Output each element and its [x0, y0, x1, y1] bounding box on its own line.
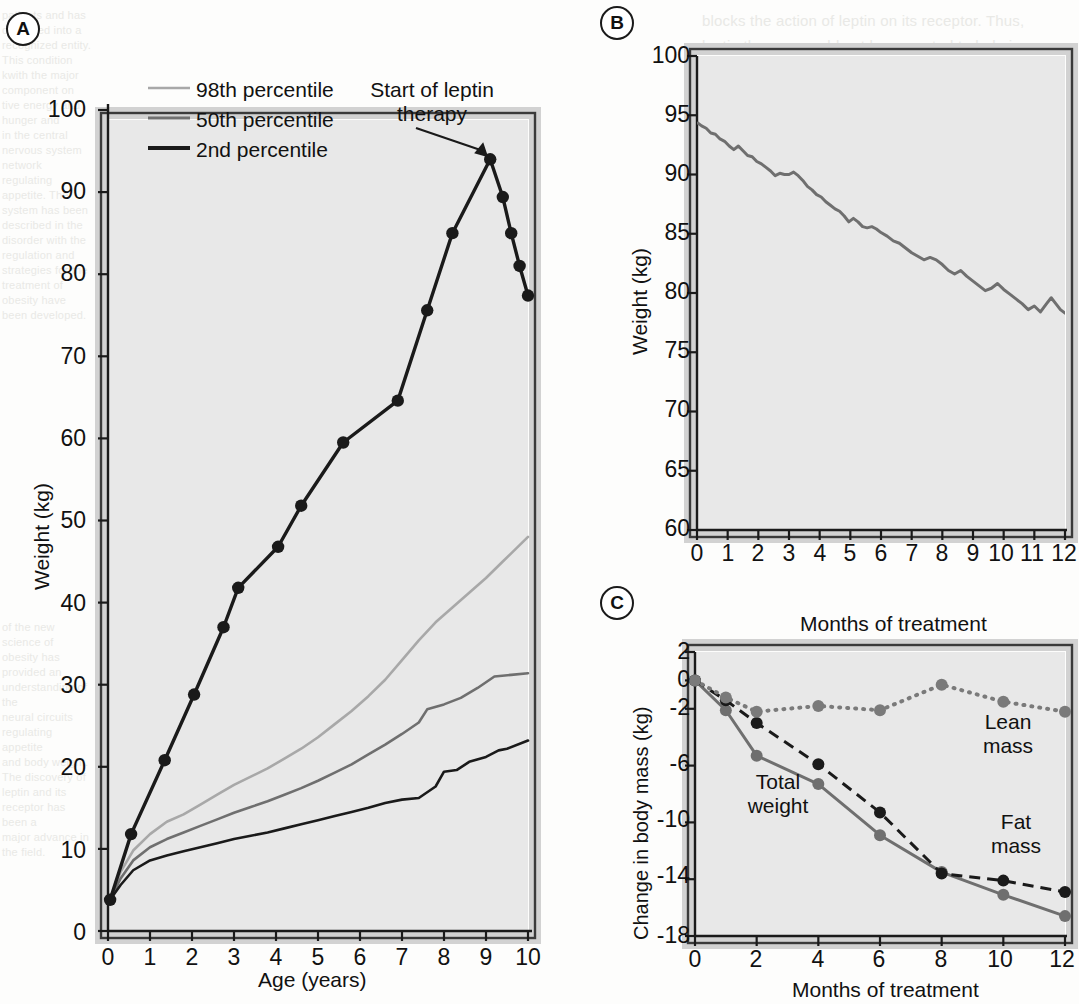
panel-c-ytick--10: -10	[622, 806, 690, 833]
panel-c-marker-fat-mass-3	[812, 758, 824, 770]
panel-c-x-axis-title: Months of treatment	[792, 978, 979, 1002]
panel-c-ytick--14: -14	[622, 862, 690, 889]
panel-a-ytick-60: 60	[34, 425, 86, 452]
panel-b-ytick-75: 75	[638, 337, 690, 364]
panel-c-marker-lean-mass-1	[720, 691, 732, 703]
panel-c-marker-lean-mass-5	[936, 679, 948, 691]
panel-c-marker-lean-mass-7	[1059, 706, 1071, 718]
panel-a-xtick-7: 7	[382, 944, 422, 971]
panel-a-ytick-10: 10	[34, 837, 86, 864]
panel-c-xtick-12: 12	[1042, 946, 1079, 973]
panel-a-marker-7	[295, 500, 307, 512]
panel-c-ytick--18: -18	[622, 922, 690, 949]
panel-c-marker-fat-mass-5	[936, 868, 948, 880]
panel-a-marker-11	[446, 227, 458, 239]
panel-a-inner-bg	[108, 120, 528, 931]
panel-a-tag: A	[6, 12, 40, 46]
panel-b-ytick-95: 95	[638, 101, 690, 128]
panel-a-xtick-2: 2	[172, 944, 212, 971]
panel-c-marker-lean-mass-0	[689, 674, 701, 686]
panel-a-marker-5	[232, 582, 244, 594]
panel-c-marker-total-weight-7	[1059, 910, 1071, 922]
panel-b-ytick-70: 70	[638, 396, 690, 423]
panel-a-ytick-50: 50	[34, 507, 86, 534]
panel-a-marker-16	[522, 289, 534, 301]
panel-b-ytick-100: 100	[638, 42, 690, 69]
panel-a-marker-1	[125, 828, 137, 840]
panel-a-annotation-text: Start of leptin therapy	[352, 78, 512, 126]
panel-a-xtick-4: 4	[256, 944, 296, 971]
panel-a-marker-8	[337, 436, 349, 448]
panel-a-x-axis-title: Age (years)	[258, 968, 367, 992]
panel-c-xtick-2: 2	[736, 946, 776, 973]
panel-a-xtick-10: 10	[508, 944, 548, 971]
panel-c-marker-lean-mass-2	[751, 706, 763, 718]
panel-a-marker-4	[217, 621, 229, 633]
panel-b-ytick-90: 90	[638, 160, 690, 187]
panel-c-marker-total-weight-4	[874, 829, 886, 841]
figure-root: blocks the action of leptin on its recep…	[0, 0, 1079, 1004]
panel-b-ytick-85: 85	[638, 219, 690, 246]
panel-b-ytick-80: 80	[638, 278, 690, 305]
panel-c-label-total-weight: Total weight	[728, 770, 828, 818]
panel-c-marker-fat-mass-4	[874, 806, 886, 818]
panel-c-label-fat-mass: Fat mass	[976, 810, 1056, 858]
panel-a-marker-13	[497, 191, 509, 203]
panel-c-marker-lean-mass-4	[874, 704, 886, 716]
panel-c-marker-fat-mass-2	[751, 717, 763, 729]
panel-a-legend-label-98th: 98th percentile	[196, 78, 334, 102]
panel-a-legend-label-2nd: 2nd percentile	[196, 138, 328, 162]
panel-a-y-axis-title: Weight (kg)	[30, 483, 54, 590]
panel-a-ytick-40: 40	[34, 590, 86, 617]
panel-c-ytick--2: -2	[630, 694, 690, 721]
panel-a-xtick-5: 5	[298, 944, 338, 971]
panel-a-ytick-30: 30	[34, 672, 86, 699]
panel-c-tag: C	[600, 586, 634, 620]
panel-c-ytick-2: 2	[638, 638, 690, 665]
panel-a-marker-0	[104, 894, 116, 906]
panel-c-xtick-8: 8	[921, 946, 961, 973]
panel-c-xtick-4: 4	[798, 946, 838, 973]
panel-b-tag: B	[600, 6, 634, 40]
panel-a-marker-10	[421, 304, 433, 316]
panel-c-marker-fat-mass-7	[1059, 886, 1071, 898]
panel-a-ytick-20: 20	[34, 754, 86, 781]
panel-c-ytick--6: -6	[630, 750, 690, 777]
panel-a-xtick-1: 1	[130, 944, 170, 971]
panel-a-marker-15	[513, 260, 525, 272]
panel-c-xtick-0: 0	[675, 946, 715, 973]
panel-a: A Weight (kg) Age (years) 100 90 80 70 6…	[0, 0, 570, 1004]
panel-a-marker-3	[188, 688, 200, 700]
panel-a-ytick-80: 80	[34, 260, 86, 287]
panel-a-xtick-8: 8	[424, 944, 464, 971]
panel-b-ytick-60: 60	[638, 515, 690, 542]
panel-a-xtick-0: 0	[88, 944, 128, 971]
panel-c-marker-lean-mass-3	[812, 700, 824, 712]
panel-a-xtick-6: 6	[340, 944, 380, 971]
panel-a-xtick-3: 3	[214, 944, 254, 971]
panel-b-ytick-65: 65	[638, 456, 690, 483]
panel-a-ytick-90: 90	[34, 178, 86, 205]
panel-c-marker-fat-mass-6	[997, 875, 1009, 887]
panel-a-marker-9	[392, 394, 404, 406]
panel-c-marker-lean-mass-6	[997, 696, 1009, 708]
panel-a-marker-6	[272, 541, 284, 553]
panel-c-xtick-10: 10	[980, 946, 1020, 973]
panel-c: C Change in body mass (kg) Months of tre…	[600, 560, 1079, 1004]
panel-a-legend-label-50th: 50th percentile	[196, 108, 334, 132]
panel-a-marker-2	[159, 754, 171, 766]
panel-c-marker-total-weight-6	[997, 889, 1009, 901]
panel-b: B Weight (kg) Months of treatment 100 95…	[600, 0, 1079, 560]
panel-c-xtick-6: 6	[859, 946, 899, 973]
panel-a-xtick-9: 9	[466, 944, 506, 971]
panel-a-ytick-0: 0	[34, 919, 86, 946]
panel-a-ytick-70: 70	[34, 343, 86, 370]
panel-a-marker-14	[505, 227, 517, 239]
panel-c-label-lean-mass: Lean mass	[968, 710, 1048, 758]
panel-c-marker-total-weight-2	[751, 750, 763, 762]
panel-a-ytick-100: 100	[34, 96, 86, 123]
panel-c-ytick-0: 0	[638, 666, 690, 693]
